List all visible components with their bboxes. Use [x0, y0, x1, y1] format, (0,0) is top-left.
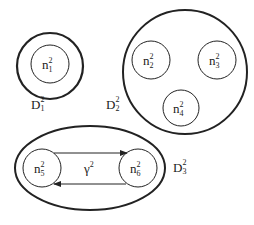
- domain-diagram: n21 D21 n22 n23 n24 D22 n25 n26: [0, 0, 254, 225]
- domain-d1-label: D21: [31, 95, 44, 113]
- domain-d2-label: D22: [106, 95, 119, 113]
- node-n3-label: n23: [209, 52, 220, 70]
- node-n2: n22: [132, 41, 170, 79]
- node-n5: n25: [23, 149, 61, 187]
- node-n5-label: n25: [34, 160, 45, 178]
- node-n4-label: n24: [173, 100, 184, 118]
- node-n1-label: n21: [42, 56, 53, 74]
- node-n1: n21: [31, 45, 69, 83]
- node-n3: n23: [198, 41, 236, 79]
- domain-d2: n22 n23 n24 D22: [106, 10, 247, 134]
- node-n6-label: n26: [130, 160, 141, 178]
- node-n4: n24: [163, 90, 199, 126]
- node-n2-label: n22: [143, 52, 154, 70]
- domain-d2-boundary: [123, 10, 247, 134]
- node-n6: n26: [119, 149, 157, 187]
- domain-d3: n25 n26 γ2 D23: [15, 126, 186, 210]
- domain-d1: n21 D21: [17, 33, 83, 113]
- domain-d3-label: D23: [173, 158, 186, 176]
- edge-label-gamma: γ2: [83, 160, 94, 176]
